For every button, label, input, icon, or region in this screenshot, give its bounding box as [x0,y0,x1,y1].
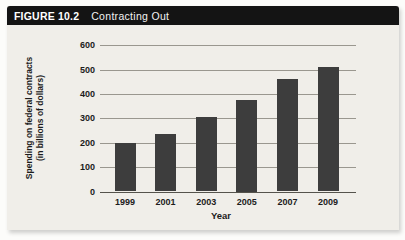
bar-1999 [115,143,136,192]
y-tick-label: 300 [69,113,95,123]
y-axis-title: Spending on federal contracts (in billio… [24,57,46,179]
x-tick-label: 2007 [267,197,307,207]
bar-2001 [155,134,176,191]
bar-2007 [277,79,298,191]
figure-title: Contracting Out [91,10,169,22]
y-tick-label: 600 [69,40,95,50]
chart-area: 0100200300400500600 19992001200320052007… [7,25,399,230]
y-tick-label: 400 [69,89,95,99]
x-tick-label: 2005 [227,197,267,207]
x-tick-label: 2003 [186,197,226,207]
x-axis-title: Year [211,210,231,221]
y-axis-title-line1: Spending on federal contracts [24,57,35,179]
figure-header: FIGURE 10.2 Contracting Out [7,6,399,25]
x-axis-baseline [100,192,356,193]
y-gridline [100,45,356,46]
x-tick-label: 1999 [105,197,145,207]
y-tick-label: 200 [69,138,95,148]
bar-2003 [196,117,217,191]
y-axis-title-line2: (in billions of dollars) [35,57,46,179]
figure-panel: FIGURE 10.2 Contracting Out 010020030040… [7,6,399,230]
bar-2009 [318,67,339,191]
bar-2005 [236,100,257,192]
x-tick-label: 2001 [146,197,186,207]
y-tick-label: 500 [69,65,95,75]
figure-label: FIGURE 10.2 [14,10,79,22]
y-tick-label: 0 [69,187,95,197]
y-tick-label: 100 [69,162,95,172]
x-tick-label: 2009 [308,197,348,207]
